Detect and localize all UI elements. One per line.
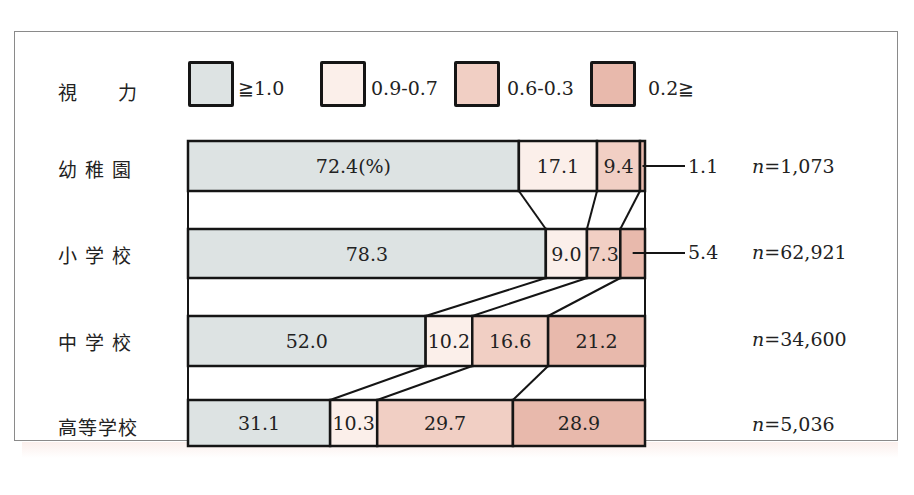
n-symbol: n (752, 413, 764, 435)
segment-value-label: 17.1 (537, 155, 579, 177)
connector-line (620, 191, 640, 229)
n-value: =5,036 (764, 413, 834, 435)
connector-line (519, 191, 546, 229)
callout-value: 5.4 (688, 241, 718, 263)
segment-value-label: 72.4(%) (316, 155, 391, 177)
n-symbol: n (752, 155, 764, 177)
connector-line (513, 366, 548, 400)
n-value: =1,073 (764, 155, 834, 177)
segment-value-label: 9.0 (551, 243, 581, 265)
sample-size-junior-high: n=34,600 (752, 328, 847, 350)
n-value: =62,921 (764, 241, 846, 263)
callout-kindergarten-le-0-2: 1.1 (688, 155, 718, 177)
segment-value-label: 52.0 (286, 330, 328, 352)
bars-group: 72.4(%)17.19.478.39.07.352.010.216.621.2… (188, 141, 645, 446)
sample-size-high-school: n=5,036 (752, 413, 835, 435)
callout-value: 1.1 (688, 155, 718, 177)
n-value: =34,600 (764, 328, 846, 350)
connector-line (548, 278, 620, 316)
segment-value-label: 31.1 (238, 412, 280, 434)
n-symbol: n (752, 328, 764, 350)
connector-line (330, 366, 426, 400)
segment-value-label: 16.6 (489, 330, 531, 352)
segment-value-label: 28.9 (558, 412, 600, 434)
segment-value-label: 9.4 (603, 155, 633, 177)
segment-value-label: 29.7 (424, 412, 466, 434)
connector-line (377, 366, 472, 400)
segment-value-label: 10.2 (428, 330, 470, 352)
sample-size-kindergarten: n=1,073 (752, 155, 835, 177)
segment-value-label: 7.3 (589, 243, 619, 265)
callout-elementary-le-0-2: 5.4 (688, 241, 718, 263)
segment-value-label: 78.3 (346, 243, 388, 265)
connector-line (587, 191, 597, 229)
segment-value-label: 21.2 (575, 330, 617, 352)
n-symbol: n (752, 241, 764, 263)
segment-value-label: 10.3 (333, 412, 375, 434)
sample-size-elementary: n=62,921 (752, 241, 847, 263)
